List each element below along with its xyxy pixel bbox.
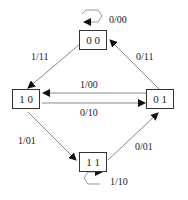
state-10: 1 0 <box>12 89 40 109</box>
label-1-11: 1/11 <box>31 51 48 62</box>
self-loop-00 <box>84 10 102 22</box>
state-01: 0 1 <box>146 89 174 109</box>
label-1-01: 1/01 <box>18 135 36 146</box>
label-0-11: 0/11 <box>136 51 153 62</box>
label-0-00: 0/00 <box>109 14 127 25</box>
state-00: 0 0 <box>79 30 107 50</box>
label-0-01: 0/01 <box>135 141 153 152</box>
label-0-10: 0/10 <box>80 107 98 118</box>
edge-11-01 <box>108 113 158 160</box>
label-1-00: 1/00 <box>80 79 98 90</box>
state-11: 1 1 <box>79 152 107 172</box>
label-1-10: 1/10 <box>110 176 128 187</box>
self-loop-11 <box>84 172 102 184</box>
edge-01-00 <box>110 40 160 90</box>
